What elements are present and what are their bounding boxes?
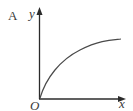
y-axis-label: y [29,7,35,20]
x-axis-label: x [119,97,125,110]
option-label: A [8,9,17,22]
curve-line [40,39,121,98]
y-axis-arrow-icon [37,7,43,15]
graph-figure: A y O x [0,0,133,111]
origin-label: O [30,99,39,111]
graph-canvas [0,0,133,111]
